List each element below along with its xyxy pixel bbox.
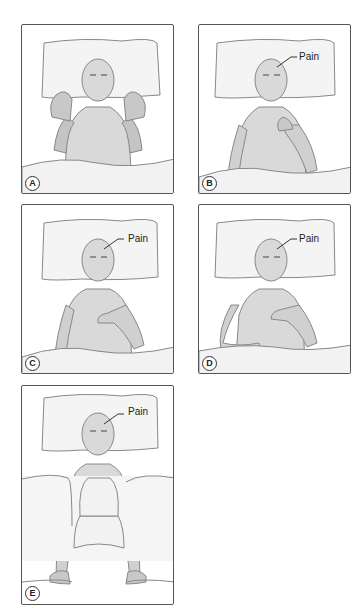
panel-a: A: [21, 24, 174, 194]
pain-label-d: Pain: [299, 233, 319, 244]
patient-illustration-a: [22, 25, 174, 194]
patient-illustration-b: [199, 25, 351, 194]
panel-e: Pain E: [21, 385, 174, 605]
panel-d: Pain D: [198, 204, 351, 374]
panel-c: Pain C: [21, 204, 174, 374]
panel-b: Pain B: [198, 24, 351, 194]
patient-illustration-e: [22, 386, 174, 605]
patient-illustration-c: [22, 205, 174, 374]
pain-label-e: Pain: [128, 406, 148, 417]
panel-label-d: D: [202, 356, 217, 371]
panel-label-e: E: [25, 586, 40, 601]
panel-label-c: C: [25, 356, 40, 371]
panel-label-b: B: [202, 176, 217, 191]
patient-illustration-d: [199, 205, 351, 374]
pain-label-b: Pain: [299, 51, 319, 62]
panel-label-a: A: [25, 176, 40, 191]
pain-label-c: Pain: [128, 233, 148, 244]
